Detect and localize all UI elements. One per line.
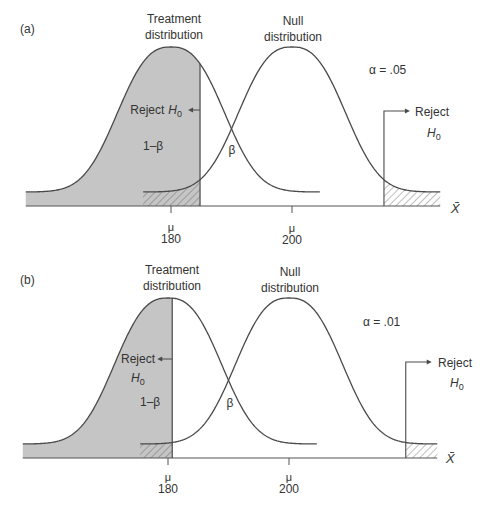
alpha-right-tail-hatch — [384, 180, 440, 206]
reject-right-text: Reject — [438, 356, 473, 370]
reject-left-h: H — [131, 371, 140, 385]
tick-label-null: 200 — [279, 482, 299, 496]
null-distribution-label-line2: distribution — [261, 281, 319, 295]
panel-label: (a) — [20, 22, 35, 36]
reject-left-label: RejectH0 — [130, 103, 182, 119]
reject-right-h0: H0 — [450, 376, 464, 392]
tick-label-null: 200 — [282, 233, 302, 247]
reject-right-sub: 0 — [436, 132, 441, 142]
treatment-distribution-label-line2: distribution — [143, 279, 201, 293]
reject-left-text: Reject — [121, 352, 156, 366]
null-distribution-label-line2: distribution — [264, 30, 322, 44]
reject-left-h: H — [168, 103, 177, 117]
reject-right-h: H — [427, 126, 436, 140]
arrow-right-icon — [427, 360, 432, 365]
alpha-label: α = .05 — [369, 63, 407, 77]
power-label: 1–β — [143, 139, 163, 153]
x-axis-label: X̄ — [445, 451, 456, 466]
power-diagram-figure: (a) Treatment distribution Null distribu… — [0, 0, 489, 517]
alpha-left-tail-hatch — [140, 443, 172, 458]
reject-right-h0: H0 — [427, 126, 441, 142]
alpha-right-tail-hatch — [406, 443, 437, 458]
panel-a: (a) Treatment distribution Null distribu… — [20, 12, 461, 247]
null-distribution-label-line1: Null — [280, 265, 301, 279]
beta-label: β — [229, 143, 236, 157]
panel-label: (b) — [20, 273, 35, 287]
alpha-label: α = .01 — [363, 315, 401, 329]
treatment-distribution-label-line1: Treatment — [147, 12, 202, 26]
tick-label-treatment: 180 — [161, 232, 181, 246]
arrow-right-icon — [405, 109, 410, 114]
reject-right-sub: 0 — [459, 382, 464, 392]
null-distribution-label-line1: Null — [283, 14, 304, 28]
beta-label: β — [227, 396, 234, 410]
panel-b: (b) Treatment distribution Null distribu… — [20, 263, 473, 496]
reject-right-text: Reject — [415, 105, 450, 119]
power-region — [23, 298, 172, 458]
tick-label-treatment: 180 — [158, 482, 178, 496]
power-label: 1–β — [140, 395, 160, 409]
treatment-distribution-label-line1: Treatment — [145, 263, 200, 277]
reject-left-sub: 0 — [140, 377, 145, 387]
treatment-distribution-label-line2: distribution — [145, 28, 203, 42]
reject-left-sub: 0 — [177, 109, 182, 119]
reject-right-h: H — [450, 376, 459, 390]
power-region — [26, 47, 200, 206]
x-axis-label: X̄ — [450, 201, 461, 216]
reject-left-text: Reject — [130, 103, 165, 117]
